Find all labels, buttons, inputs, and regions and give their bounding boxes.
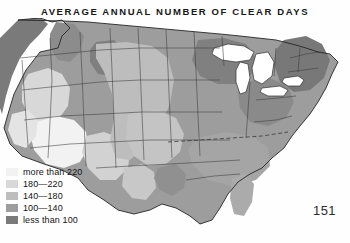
legend-swatch [6,180,18,189]
legend-label: 180—220 [23,178,63,190]
legend-label: more than 220 [23,166,82,178]
map-legend: more than 220 180—220 140—180 100—140 le… [6,166,121,226]
legend-item-140-180: 140—180 [6,190,121,202]
legend-label: less than 100 [23,214,78,226]
legend-label: 100—140 [23,202,63,214]
lake-ontario [282,76,304,86]
legend-swatch [6,192,18,201]
legend-item-less-than-100: less than 100 [6,214,121,226]
band-florida [230,174,254,216]
legend-swatch [6,204,18,213]
legend-swatch [6,216,18,225]
legend-item-100-140: 100—140 [6,202,121,214]
page-title: AVERAGE ANNUAL NUMBER OF CLEAR DAYS [0,6,350,17]
legend-swatch [6,168,18,177]
legend-label: 140—180 [23,190,63,202]
legend-item-more-than-220: more than 220 [6,166,121,178]
legend-item-180-220: 180—220 [6,178,121,190]
map-page: AVERAGE ANNUAL NUMBER OF CLEAR DAYS [0,0,350,243]
page-number: 151 [313,203,336,218]
